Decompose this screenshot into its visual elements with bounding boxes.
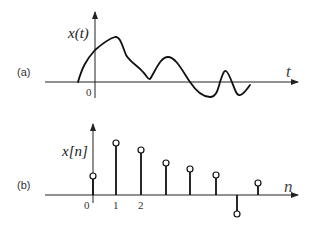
- panel-a-label: (a): [17, 66, 30, 78]
- signal-curve: [78, 37, 250, 97]
- panel-b-label: (b): [17, 179, 30, 191]
- tick-label-0: 0: [84, 199, 90, 211]
- origin-label-a: 0: [86, 86, 92, 98]
- y-axis-label-xt: x(t): [67, 25, 89, 42]
- x-axis-label-t: t: [286, 62, 292, 81]
- tick-label-2: 2: [138, 199, 144, 211]
- panel-a: (a) x(t) t 0: [17, 12, 298, 98]
- y-axis-label-xn: x[n]: [61, 143, 88, 159]
- tick-label-1: 1: [113, 199, 119, 211]
- panel-b: (b) x[n] n 0 1 2: [17, 124, 298, 217]
- figure: (a) x(t) t 0 (b) x[n] n 0 1 2: [0, 0, 311, 228]
- x-axis-label-n: n: [284, 177, 293, 196]
